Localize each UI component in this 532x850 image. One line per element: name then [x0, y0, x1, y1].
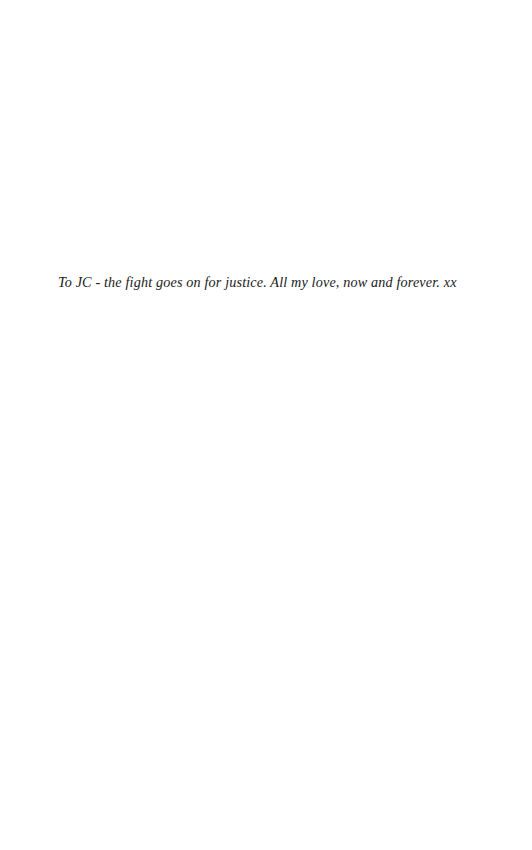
- dedication-text: To JC - the fight goes on for justice. A…: [58, 272, 478, 292]
- dedication-block: To JC - the fight goes on for justice. A…: [58, 272, 478, 292]
- dedication-page: To JC - the fight goes on for justice. A…: [0, 0, 532, 850]
